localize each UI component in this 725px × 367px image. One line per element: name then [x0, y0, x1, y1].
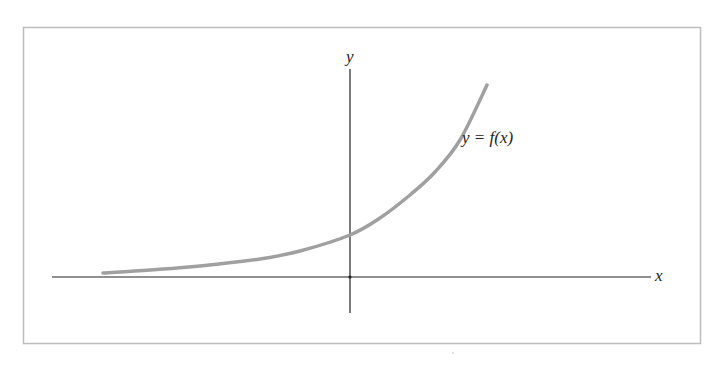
origin-point [348, 275, 351, 278]
chart-canvas: y x y = f(x) [0, 0, 725, 367]
y-axis-label: y [344, 47, 354, 66]
curve-label: y = f(x) [460, 128, 513, 147]
curve-y-equals-f-of-x [103, 85, 487, 273]
x-axis-label: x [654, 266, 663, 285]
chart-frame [24, 28, 701, 344]
speck [452, 352, 454, 354]
